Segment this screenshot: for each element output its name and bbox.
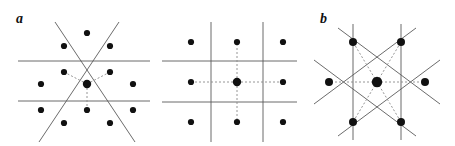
lattice-site-dot [280,79,286,85]
lattice-site-dot [61,120,67,126]
lattice-figure: a b c [0,0,455,146]
lattice-site-dot [107,120,113,126]
lattice-site-dot [349,118,357,126]
lattice-site-dot [84,30,90,36]
lattice-site-dot [397,118,405,126]
lattice-site-dot [188,119,194,125]
panel-c-diagram [300,0,455,146]
lattice-site-dot [107,43,113,49]
lattice-site-dot [234,39,240,45]
panel-c: c [300,0,455,146]
lattice-site-dot [188,79,194,85]
lattice-center-dot [372,77,382,87]
lattice-site-dot [61,69,67,75]
lattice-site-dot [38,81,44,87]
mirror-diagonal-left-line [39,22,119,142]
mirror-diagonal-right-line [55,22,135,142]
lattice-site-dot [280,39,286,45]
lattice-site-dot [234,119,240,125]
lattice-site-dot [107,69,113,75]
lattice-site-dot [130,107,136,113]
lattice-site-dot [188,39,194,45]
lattice-site-dot [325,78,333,86]
lattice-site-dot [130,81,136,87]
lattice-site-dot [280,119,286,125]
panel-a: a [0,0,152,146]
lattice-site-dot [61,43,67,49]
panel-b-diagram [150,0,302,146]
lattice-center-dot [233,78,241,86]
lattice-site-dot [84,107,90,113]
lattice-site-dot [38,107,44,113]
lattice-site-dot [397,38,405,46]
lattice-site-dot [349,38,357,46]
panel-b: b [150,0,302,146]
panel-label-a: a [16,12,23,26]
lattice-site-dot [421,78,429,86]
lattice-center-dot [83,80,91,88]
